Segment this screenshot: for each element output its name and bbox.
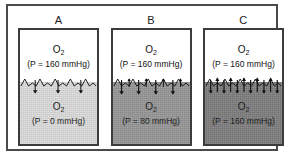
panel-a-lower-gas: O2 [53,101,65,113]
panel-b-chamber: O2 (P = 160 mmHg) O2 (P = 80 mmHg) [111,28,192,146]
panel-b-upper-gas-symbol: O [145,44,153,55]
panel-c-chamber: O2 (P = 160 mmHg) O2 (P = 160 mmHg) [203,28,284,146]
panel-a-chamber: O2 (P = 160 mmHg) O2 (P = 0 mmHg) [18,28,99,146]
panel-a-letter: A [55,14,63,28]
panel-b-upper-pressure: (P = 160 mmHg) [120,59,182,69]
panel-a: A O2 (P = 160 mmHg) O2 (P = 0 mmHg) [18,14,99,146]
panel-b-upper-compartment: O2 (P = 160 mmHg) [113,30,190,82]
panel-c-lower-pressure: (P = 160 mmHg) [212,116,274,126]
panel-c: C O2 (P = 160 mmHg) O2 (P = 160 mmHg) [203,14,284,146]
panel-b-upper-gas: O2 [145,44,157,56]
panel-c-lower-gas: O2 [238,101,250,113]
panel-b-lower-gas-symbol: O [145,101,153,112]
panel-a-lower-pressure: (P = 0 mmHg) [32,116,85,126]
panel-c-letter: C [239,14,247,28]
panel-a-upper-pressure: (P = 160 mmHg) [27,59,89,69]
panel-a-upper-gas: O2 [53,44,65,56]
figure-root: A O2 (P = 160 mmHg) O2 (P = 0 mmHg) [0,0,287,160]
panel-c-upper-gas: O2 [238,44,250,56]
panel-b-lower-gas: O2 [145,101,157,113]
panel-a-lower-gas-subscript: 2 [60,106,64,113]
panel-c-upper-pressure: (P = 160 mmHg) [212,59,274,69]
panel-c-lower-compartment: O2 (P = 160 mmHg) [205,82,282,144]
panel-b-letter: B [147,14,155,28]
panel-a-upper-gas-subscript: 2 [60,49,64,56]
panel-a-upper-compartment: O2 (P = 160 mmHg) [20,30,97,82]
figure-outer-frame: A O2 (P = 160 mmHg) O2 (P = 0 mmHg) [6,4,278,151]
panel-c-lower-gas-subscript: 2 [245,106,249,113]
panel-row: A O2 (P = 160 mmHg) O2 (P = 0 mmHg) [18,14,284,152]
panel-b-lower-gas-subscript: 2 [153,106,157,113]
panel-a-lower-compartment: O2 (P = 0 mmHg) [20,82,97,144]
panel-b-lower-pressure: (P = 80 mmHg) [122,116,180,126]
panel-c-upper-compartment: O2 (P = 160 mmHg) [205,30,282,82]
panel-c-upper-gas-subscript: 2 [245,49,249,56]
panel-b-lower-compartment: O2 (P = 80 mmHg) [113,82,190,144]
panel-b-upper-gas-subscript: 2 [153,49,157,56]
panel-b: B O2 (P = 160 mmHg) O2 (P = 80 mmHg) [111,14,192,146]
